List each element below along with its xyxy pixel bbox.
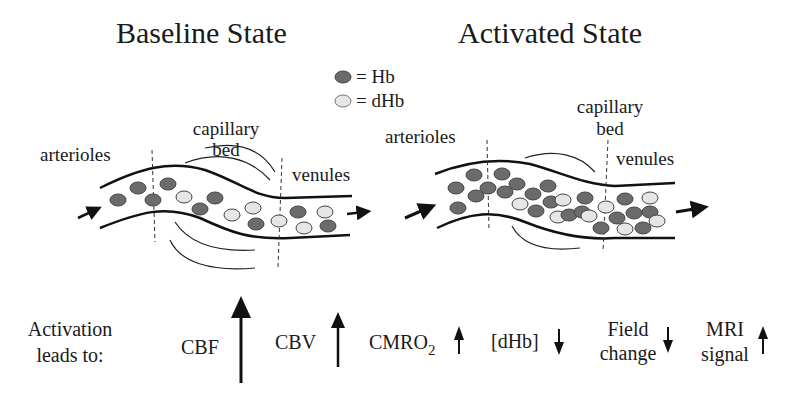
- activated-vessel: [405, 140, 700, 252]
- field-change-label-line2: change: [590, 342, 666, 365]
- cmro2-label: CMRO2: [369, 331, 435, 359]
- cmro2-up-arrow-icon: [454, 326, 464, 354]
- cmro2-subscript: 2: [428, 342, 436, 358]
- dhb-label: [dHb]: [491, 330, 539, 353]
- baseline-vessel: [78, 145, 364, 269]
- activation-label-line1: Activation: [20, 318, 120, 341]
- dhb-down-arrow-icon: [554, 329, 564, 355]
- activation-label-line2: leads to:: [20, 344, 120, 367]
- cbf-label: CBF: [181, 336, 219, 359]
- mri-signal-label-line2: signal: [690, 343, 760, 366]
- field-change-label-line1: Field: [590, 318, 666, 341]
- cbv-up-arrow-icon: [331, 312, 345, 367]
- cbf-up-arrow-icon: [231, 296, 251, 383]
- cmro2-text: CMRO: [369, 331, 428, 353]
- cbv-label: CBV: [275, 331, 316, 354]
- mri-signal-label-line1: MRI: [690, 318, 760, 341]
